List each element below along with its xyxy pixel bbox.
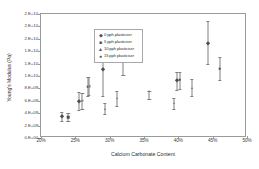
- legend-item: ● 15 pph plasticiser: [97, 53, 140, 60]
- legend-label: 0 pph plasticiser: [104, 33, 132, 37]
- y-tick-label: 2.E+09: [25, 123, 38, 127]
- x-tick-mark: [110, 136, 111, 139]
- x-tick-mark: [178, 136, 179, 139]
- error-bar-cap: [87, 77, 90, 78]
- legend-marker-square-icon: ■: [97, 40, 104, 45]
- series-circle: [41, 14, 245, 136]
- x-tick-label: 20%: [36, 139, 45, 144]
- x-tick-label: 35%: [139, 139, 148, 144]
- error-bar-cap: [87, 95, 90, 96]
- y-tick-label: 1.E+10: [25, 49, 38, 53]
- y-tick-label: 1.E+10: [25, 61, 38, 65]
- y-tick-label: 8.E+09: [25, 86, 38, 90]
- y-tick-label: 1.E+10: [25, 74, 38, 78]
- plot-area: 0.E+002.E+094.E+096.E+098.E+091.E+101.E+…: [40, 13, 246, 137]
- y-tick-label: 2.E+10: [25, 24, 38, 28]
- legend-label: 15 pph plasticiser: [104, 54, 134, 58]
- x-tick-mark: [41, 136, 42, 139]
- x-tick-mark: [144, 136, 145, 139]
- point-marker-circle: [81, 99, 84, 102]
- legend-marker-circle-icon: ●: [97, 54, 104, 59]
- legend-item: ▲ 10 pph plasticiser: [97, 46, 140, 53]
- x-axis-title: Calcium Carbonate Content: [40, 152, 246, 157]
- y-tick-label: 4.E+09: [25, 111, 38, 115]
- error-bar-cap: [80, 93, 83, 94]
- legend-marker-diamond-icon: ◆: [97, 33, 104, 38]
- x-tick-label: 45%: [208, 139, 217, 144]
- y-axis-title: Young's Modulus (Pa): [7, 30, 12, 126]
- legend-marker-triangle-icon: ▲: [97, 47, 104, 52]
- x-tick-mark: [247, 136, 248, 139]
- y-tick-label: 2.E+10: [25, 37, 38, 41]
- chart-legend: ◆ 0 pph plasticiser ■ 5 pph plasticiser …: [94, 29, 143, 63]
- x-tick-mark: [213, 136, 214, 139]
- legend-label: 5 pph plasticiser: [104, 40, 132, 44]
- y-tick-label: 6.E+09: [25, 99, 38, 103]
- x-tick-label: 30%: [105, 139, 114, 144]
- point-marker-circle: [88, 85, 91, 88]
- legend-item: ◆ 0 pph plasticiser: [97, 32, 140, 39]
- legend-label: 10 pph plasticiser: [104, 47, 134, 51]
- x-tick-mark: [75, 136, 76, 139]
- x-tick-label: 25%: [71, 139, 80, 144]
- legend-item: ■ 5 pph plasticiser: [97, 39, 140, 46]
- x-tick-label: 40%: [174, 139, 183, 144]
- chart-container: Young's Modulus (Pa) 0.E+002.E+094.E+096…: [0, 0, 259, 169]
- y-tick-label: 2.E+10: [25, 12, 38, 16]
- error-bar-cap: [80, 109, 83, 110]
- x-tick-label: 50%: [242, 139, 251, 144]
